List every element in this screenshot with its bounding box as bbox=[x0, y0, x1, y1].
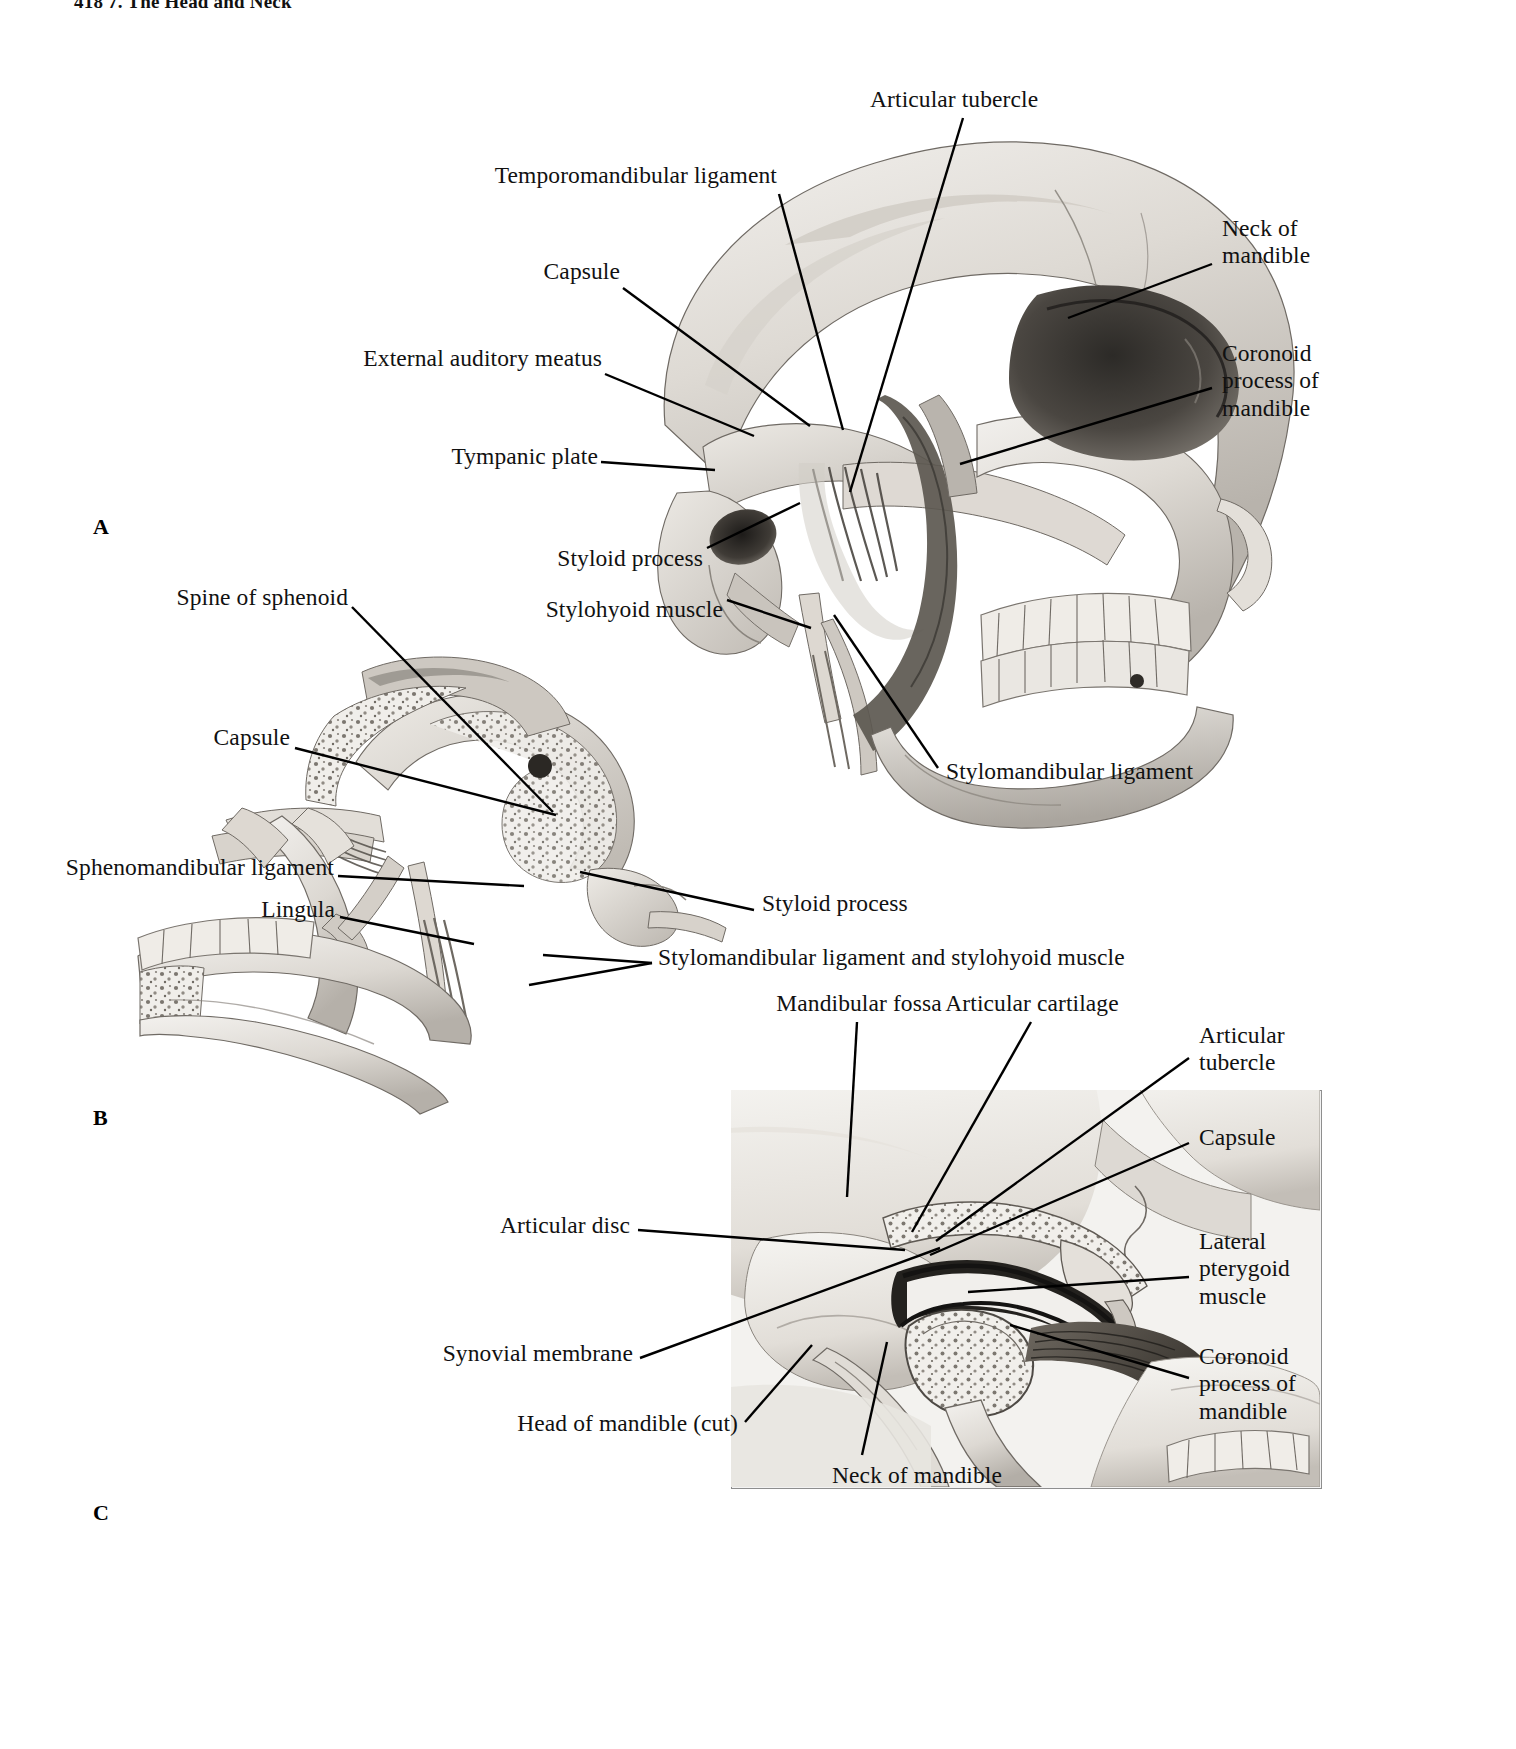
label-coronoid-process-a: Coronoid process of mandible bbox=[1222, 340, 1319, 422]
label-sphenomandibular-ligament: Sphenomandibular ligament bbox=[28, 854, 334, 881]
label-neck-of-mandible: Neck of mandible bbox=[1222, 215, 1310, 270]
label-external-auditory-meatus: External auditory meatus bbox=[340, 345, 602, 372]
label-tympanic-plate: Tympanic plate bbox=[440, 443, 598, 470]
label-spine-of-sphenoid: Spine of sphenoid bbox=[110, 584, 348, 611]
label-coronoid-process-c: Coronoid process of mandible bbox=[1199, 1343, 1296, 1425]
label-lateral-pterygoid-muscle: Lateral pterygoid muscle bbox=[1199, 1228, 1290, 1310]
label-synovial-membrane: Synovial membrane bbox=[388, 1340, 633, 1367]
panel-letter-a: A bbox=[93, 514, 109, 540]
label-articular-tubercle: Articular tubercle bbox=[870, 86, 1038, 113]
label-styloid-process-b: Styloid process bbox=[762, 890, 908, 917]
running-head: 418 7. The Head and Neck bbox=[74, 0, 292, 13]
label-capsule-a: Capsule bbox=[462, 258, 620, 285]
label-head-of-mandible-cut: Head of mandible (cut) bbox=[460, 1410, 738, 1437]
label-stylomandibular-and-stylohyoid: Stylomandibular ligament and stylohyoid … bbox=[658, 944, 1125, 971]
panel-letter-b: B bbox=[93, 1105, 108, 1131]
label-lingula: Lingula bbox=[180, 896, 335, 923]
label-stylomandibular-ligament: Stylomandibular ligament bbox=[946, 758, 1193, 785]
label-temporomandibular-ligament: Temporomandibular ligament bbox=[462, 162, 777, 189]
figure-page: 418 7. The Head and Neck bbox=[0, 0, 1516, 1749]
label-capsule-c: Capsule bbox=[1199, 1124, 1275, 1151]
label-articular-cartilage: Articular cartilage bbox=[903, 990, 1161, 1017]
panel-letter-c: C bbox=[93, 1500, 109, 1526]
label-capsule-b: Capsule bbox=[135, 724, 290, 751]
label-stylohyoid-muscle: Stylohyoid muscle bbox=[530, 596, 723, 623]
label-styloid-process-a: Styloid process bbox=[540, 545, 703, 572]
label-articular-disc: Articular disc bbox=[430, 1212, 630, 1239]
label-articular-tubercle-c: Articular tubercle bbox=[1199, 1022, 1285, 1077]
label-neck-of-mandible-c: Neck of mandible bbox=[832, 1462, 1002, 1489]
